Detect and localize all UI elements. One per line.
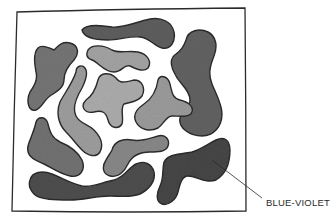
blob-blue-violet [157, 138, 230, 204]
callout-label-blue-violet: BLUE-VIOLET [266, 197, 330, 208]
blob-right [172, 30, 223, 136]
blob-bottom [29, 162, 154, 200]
blob-upper-inner [87, 46, 150, 72]
blob-illustration [0, 0, 332, 224]
blob-top [82, 19, 174, 49]
callout-leader-line [212, 160, 262, 198]
